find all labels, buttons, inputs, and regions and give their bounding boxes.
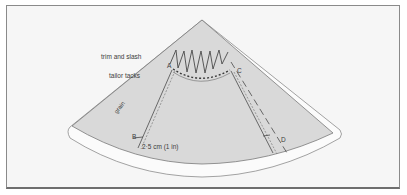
point-d: D <box>281 136 286 143</box>
label-measurement: 2·5 cm (1 in) <box>142 143 178 151</box>
fabric-cone <box>72 20 333 164</box>
point-b: B <box>132 133 136 140</box>
point-a: A <box>167 62 172 69</box>
label-trim-and-slash: trim and slash <box>101 53 142 60</box>
point-c: C <box>237 67 242 74</box>
label-tailor-tacks: tailor tacks <box>109 72 141 79</box>
cone-pattern-diagram: trim and slash tailor tacks grain 2·5 cm… <box>0 0 407 195</box>
